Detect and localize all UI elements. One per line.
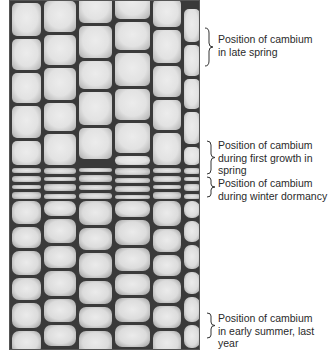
wood-cell	[79, 92, 112, 125]
wood-cell	[44, 134, 76, 165]
wood-cell	[184, 272, 200, 294]
wood-cell	[12, 331, 41, 351]
brace-icon	[205, 312, 217, 339]
wood-cell	[79, 331, 112, 351]
wood-cell	[12, 176, 41, 182]
wood-cell	[12, 185, 41, 189]
wood-cell	[44, 103, 76, 131]
label-late-spring: Position of cambium in late spring	[218, 33, 313, 58]
wood-cell	[115, 22, 150, 50]
wood-cell	[44, 219, 76, 243]
wood-cell	[153, 279, 181, 303]
wood-cell	[44, 177, 76, 181]
wood-cell	[184, 221, 200, 242]
wood-cell	[44, 299, 76, 322]
wood-cell	[44, 184, 76, 191]
wood-cell	[153, 306, 181, 328]
wood-cell	[44, 1, 76, 32]
wood-cell	[79, 175, 112, 182]
wood-cell	[184, 184, 200, 191]
wood-cell	[44, 68, 76, 100]
wood-cell	[153, 176, 181, 182]
wood-cell	[79, 193, 112, 199]
wood-cell	[184, 79, 200, 109]
wood-cell	[79, 26, 112, 58]
label-winter-dormancy: Position of cambium during winter dorman…	[218, 177, 327, 202]
wood-cell	[79, 228, 112, 250]
brace-icon	[205, 176, 217, 198]
wood-cell	[115, 220, 150, 245]
wood-cell	[12, 278, 41, 300]
wood-cell	[184, 325, 200, 348]
wood-cell	[184, 9, 200, 42]
wood-cell	[79, 128, 112, 159]
wood-cell	[12, 201, 41, 224]
wood-cell	[115, 274, 150, 295]
label-first-growth-spring: Position of cambium during first growth …	[218, 139, 313, 177]
wood-cell	[44, 271, 76, 296]
wood-cell	[44, 349, 76, 351]
wood-cell	[115, 248, 150, 271]
wood-cell	[184, 194, 200, 199]
wood-cell	[115, 0, 150, 19]
wood-cell	[153, 255, 181, 276]
wood-cell	[12, 106, 41, 138]
wood-cell	[44, 201, 76, 216]
wood-cell-tissue-panel	[9, 0, 200, 350]
wood-cell	[115, 178, 150, 183]
brace-icon	[205, 140, 217, 175]
wood-cell	[184, 147, 200, 165]
wood-cell	[153, 185, 181, 189]
wood-cell	[115, 201, 150, 217]
wood-cell	[79, 185, 112, 190]
wood-cell	[115, 168, 150, 175]
wood-cell	[115, 53, 150, 86]
wood-cell	[184, 201, 200, 218]
wood-cell	[79, 307, 112, 328]
wood-cell	[184, 168, 200, 174]
wood-cell	[153, 0, 181, 27]
wood-cell	[12, 227, 41, 248]
wood-cell	[44, 325, 76, 346]
wood-cell	[12, 168, 41, 173]
wood-cell	[79, 168, 112, 172]
wood-cell	[115, 123, 150, 153]
wood-cell	[12, 141, 41, 165]
wood-cell	[79, 253, 112, 278]
wood-cell	[115, 156, 150, 165]
wood-cell	[12, 39, 41, 70]
wood-cell	[184, 245, 200, 269]
brace-icon	[203, 27, 215, 67]
wood-cell	[79, 61, 112, 89]
wood-cell	[12, 3, 41, 36]
wood-cell	[115, 195, 150, 199]
wood-cell	[12, 303, 41, 328]
wood-cell	[44, 168, 76, 174]
wood-cell	[79, 281, 112, 304]
wood-cell	[44, 246, 76, 268]
wood-cell	[79, 0, 112, 23]
wood-cell	[153, 66, 181, 97]
wood-cell	[153, 168, 181, 173]
wood-cell	[115, 298, 150, 322]
wood-cell	[115, 350, 150, 351]
label-early-summer-last-year: Position of cambium in early summer, las…	[218, 312, 314, 350]
wood-cell	[153, 30, 181, 63]
wood-cell	[153, 201, 181, 226]
wood-cell	[12, 192, 41, 199]
wood-cell	[184, 177, 200, 181]
wood-cell	[12, 251, 41, 275]
wood-cell	[153, 100, 181, 130]
wood-cell	[44, 194, 76, 199]
wood-cell	[153, 229, 181, 252]
wood-cell	[115, 325, 150, 347]
wood-cell	[115, 89, 150, 120]
wood-cell	[115, 186, 150, 192]
wood-cell	[184, 297, 200, 322]
wood-cell	[184, 45, 200, 76]
wood-cell	[153, 331, 181, 351]
wood-cell	[12, 73, 41, 103]
wood-cell	[153, 133, 181, 165]
wood-cell	[184, 112, 200, 144]
wood-cell	[79, 201, 112, 225]
